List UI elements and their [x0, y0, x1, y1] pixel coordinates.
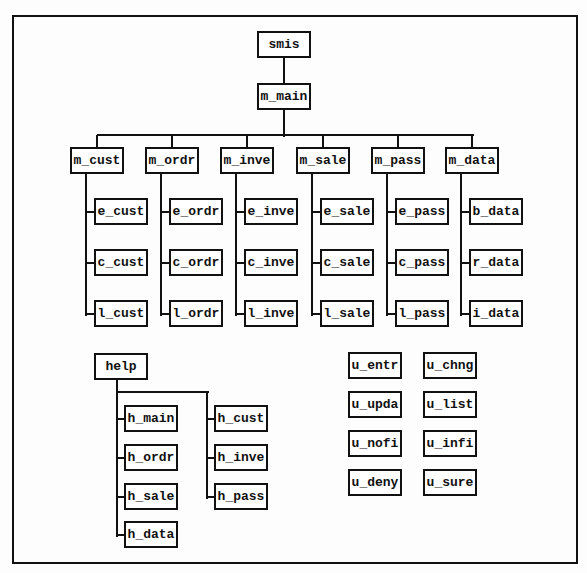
node-e-cust: e_cust — [94, 198, 148, 225]
node-b-data: b_data — [469, 198, 523, 225]
connector-line — [460, 174, 462, 316]
connector-line — [235, 174, 237, 316]
node-r-data: r_data — [469, 249, 523, 276]
connector-line — [283, 58, 285, 85]
node-e-inve: e_inve — [244, 198, 298, 225]
node-h-cust: h_cust — [214, 405, 268, 432]
node-h-data: h_data — [124, 521, 178, 548]
connector-line — [85, 174, 87, 316]
connector-line — [311, 174, 313, 316]
node-u-entr: u_entr — [348, 352, 402, 379]
node-u-chng: u_chng — [423, 352, 477, 379]
connector-line — [206, 392, 208, 499]
node-h-ordr: h_ordr — [124, 444, 178, 471]
node-m-sale: m_sale — [296, 147, 350, 174]
node-i-data: i_data — [469, 300, 523, 327]
node-m-ordr: m_ordr — [145, 147, 199, 174]
node-m-data: m_data — [445, 147, 499, 174]
node-c-ordr: c_ordr — [169, 249, 223, 276]
node-e-ordr: e_ordr — [169, 198, 223, 225]
node-l-inve: l_inve — [244, 300, 298, 327]
node-c-cust: c_cust — [94, 249, 148, 276]
node-u-infi: u_infi — [423, 430, 477, 457]
node-l-ordr: l_ordr — [169, 300, 223, 327]
connector-line — [160, 174, 162, 316]
connector-line — [386, 174, 388, 316]
node-u-nofi: u_nofi — [348, 430, 402, 457]
node-c-inve: c_inve — [244, 249, 298, 276]
node-h-pass: h_pass — [214, 483, 268, 510]
connector-line — [97, 134, 474, 136]
node-m-cust: m_cust — [70, 147, 124, 174]
node-l-sale: l_sale — [320, 300, 374, 327]
node-smis: smis — [257, 31, 311, 58]
node-u-upda: u_upda — [348, 391, 402, 418]
node-h-main: h_main — [124, 405, 178, 432]
node-u-list: u_list — [423, 391, 477, 418]
node-e-sale: e_sale — [320, 198, 374, 225]
node-h-sale: h_sale — [124, 483, 178, 510]
node-m-pass: m_pass — [371, 147, 425, 174]
node-e-pass: e_pass — [395, 198, 449, 225]
node-u-deny: u_deny — [348, 469, 402, 496]
node-m-main: m_main — [257, 83, 311, 110]
node-c-sale: c_sale — [320, 249, 374, 276]
connector-line — [117, 391, 209, 393]
connector-line — [283, 110, 285, 137]
node-m-inve: m_inve — [220, 147, 274, 174]
node-c-pass: c_pass — [395, 249, 449, 276]
node-h-inve: h_inve — [214, 444, 268, 471]
node-u-sure: u_sure — [423, 469, 477, 496]
node-l-pass: l_pass — [395, 300, 449, 327]
node-help: help — [94, 353, 148, 380]
node-l-cust: l_cust — [94, 300, 148, 327]
